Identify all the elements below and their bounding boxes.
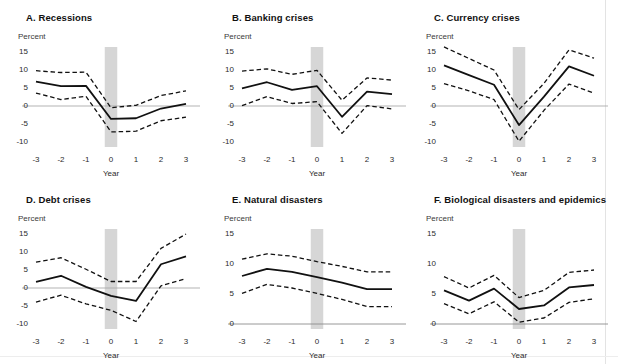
y-tick-label: 10 [2, 65, 28, 74]
y-tick-label: 0 [2, 283, 28, 292]
y-tick-label: -5 [410, 119, 436, 128]
y-tick-label: 5 [410, 83, 436, 92]
x-tick-label: -3 [432, 155, 456, 164]
panel-d: D. Debt crisesPercent151050-5-10-3-2-101… [0, 182, 205, 364]
event-year-band [513, 47, 526, 147]
x-tick-label: 3 [582, 337, 606, 346]
y-tick-label: -10 [2, 137, 28, 146]
x-tick-label: 1 [330, 337, 354, 346]
x-tick-label: 1 [124, 337, 148, 346]
x-tick-label: -2 [255, 155, 279, 164]
x-tick-label: -2 [457, 337, 481, 346]
y-tick-label: 5 [2, 265, 28, 274]
y-tick-label: -5 [2, 301, 28, 310]
y-tick-label: 5 [2, 83, 28, 92]
y-tick-label: 15 [410, 229, 436, 238]
figure-panel-grid: A. RecessionsPercent151050-5-10-3-2-1012… [0, 0, 618, 364]
y-tick-label: 0 [208, 319, 234, 328]
y-tick-label: 10 [410, 259, 436, 268]
x-tick-label: -3 [230, 155, 254, 164]
x-tick-label: 2 [557, 155, 581, 164]
y-tick-label: -10 [2, 319, 28, 328]
panels-container: A. RecessionsPercent151050-5-10-3-2-1012… [0, 0, 618, 364]
y-tick-label: 10 [208, 259, 234, 268]
x-tick-label: -1 [74, 337, 98, 346]
x-tick-label: 2 [557, 337, 581, 346]
x-tick-label: -3 [230, 337, 254, 346]
x-tick-label: 3 [174, 337, 198, 346]
x-tick-label: 0 [99, 337, 123, 346]
y-tick-label: -10 [410, 137, 436, 146]
panel-a: A. RecessionsPercent151050-5-10-3-2-1012… [0, 0, 205, 182]
y-tick-label: 15 [208, 229, 234, 238]
x-tick-label: 0 [305, 155, 329, 164]
x-tick-label: -1 [482, 155, 506, 164]
x-axis-title: Year [81, 169, 141, 178]
x-tick-label: 3 [380, 155, 404, 164]
x-tick-label: -2 [49, 337, 73, 346]
y-tick-label: 0 [410, 101, 436, 110]
x-tick-label: -2 [457, 155, 481, 164]
x-tick-label: -2 [255, 337, 279, 346]
y-tick-label: -5 [208, 119, 234, 128]
x-tick-label: -3 [432, 337, 456, 346]
y-tick-label: 0 [208, 101, 234, 110]
y-tick-label: 5 [208, 83, 234, 92]
y-tick-label: 10 [410, 65, 436, 74]
y-tick-label: 10 [2, 247, 28, 256]
x-tick-label: 3 [582, 155, 606, 164]
x-tick-label: 3 [380, 337, 404, 346]
panel-c: C. Currency crisesPercent151050-5-10-3-2… [408, 0, 613, 182]
y-tick-label: 5 [208, 289, 234, 298]
y-tick-label: 15 [208, 47, 234, 56]
y-tick-label: 5 [410, 289, 436, 298]
y-tick-label: 10 [208, 65, 234, 74]
x-tick-label: -1 [280, 337, 304, 346]
x-tick-label: 0 [507, 337, 531, 346]
x-axis-title: Year [287, 169, 347, 178]
y-tick-label: -10 [208, 137, 234, 146]
panel-b: B. Banking crisesPercent151050-5-10-3-2-… [206, 0, 411, 182]
x-tick-label: 3 [174, 155, 198, 164]
x-axis-title: Year [489, 169, 549, 178]
x-axis-title: Year [489, 351, 549, 360]
event-year-band [311, 47, 324, 147]
y-tick-label: 15 [2, 47, 28, 56]
y-tick-label: 0 [2, 101, 28, 110]
x-tick-label: -1 [280, 155, 304, 164]
y-tick-label: 15 [410, 47, 436, 56]
x-tick-label: 0 [305, 337, 329, 346]
event-year-band [513, 229, 526, 329]
x-tick-label: 2 [355, 337, 379, 346]
x-tick-label: 0 [99, 155, 123, 164]
x-tick-label: -3 [24, 155, 48, 164]
x-tick-label: -2 [49, 155, 73, 164]
x-tick-label: -1 [482, 337, 506, 346]
x-tick-label: 1 [124, 155, 148, 164]
x-tick-label: -1 [74, 155, 98, 164]
x-tick-label: 1 [532, 155, 556, 164]
x-tick-label: -3 [24, 337, 48, 346]
x-axis-title: Year [81, 351, 141, 360]
x-tick-label: 0 [507, 155, 531, 164]
x-tick-label: 1 [330, 155, 354, 164]
y-tick-label: -5 [2, 119, 28, 128]
x-tick-label: 2 [149, 337, 173, 346]
y-tick-label: 15 [2, 229, 28, 238]
panel-f: F. Biological disasters and epidemicsPer… [408, 182, 613, 364]
x-tick-label: 2 [149, 155, 173, 164]
panel-e: E. Natural disastersPercent151050-3-2-10… [206, 182, 411, 364]
x-axis-title: Year [287, 351, 347, 360]
y-tick-label: 0 [410, 319, 436, 328]
x-tick-label: 1 [532, 337, 556, 346]
x-tick-label: 2 [355, 155, 379, 164]
